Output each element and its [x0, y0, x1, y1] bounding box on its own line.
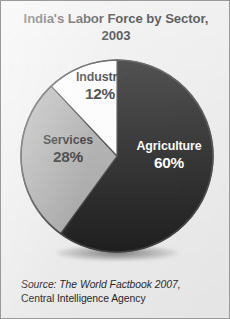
- pie-label-services-value: 28%: [25, 149, 111, 165]
- pie-label-agriculture: Agriculture 60%: [121, 140, 217, 171]
- pie-label-agriculture-value: 60%: [121, 155, 217, 171]
- chart-title: India's Labor Force by Sector, 2003: [1, 10, 230, 44]
- pie-label-services-name: Services: [25, 134, 111, 147]
- chart-title-line-1: India's Labor Force by Sector,: [1, 10, 230, 27]
- pie-label-industry: Industry 12%: [57, 71, 143, 102]
- chart-source-line-2: Central Intelligence Agency: [21, 292, 217, 306]
- chart-title-line-2: 2003: [1, 27, 230, 44]
- pie-label-agriculture-name: Agriculture: [121, 140, 217, 153]
- pie-label-industry-name: Industry: [57, 71, 143, 84]
- chart-figure: India's Labor Force by Sector, 2003 Indu…: [0, 0, 230, 319]
- pie-label-industry-value: 12%: [57, 86, 143, 102]
- chart-source: Source: The World Factbook 2007, Central…: [21, 278, 217, 305]
- chart-source-line-1: Source: The World Factbook 2007,: [21, 278, 217, 292]
- pie-label-services: Services 28%: [25, 134, 111, 165]
